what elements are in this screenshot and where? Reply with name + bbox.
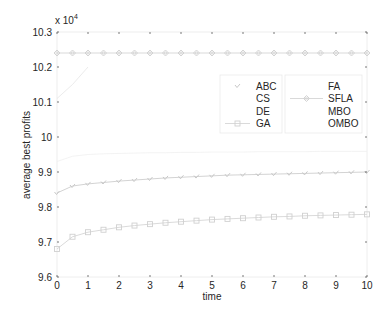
x-tick-label: 3 <box>147 280 153 291</box>
legend: ABCCSDEGAFASFLAMBOOMBO <box>220 75 362 133</box>
legend-box-left: ABCCSDEGA <box>220 75 282 133</box>
y-tick-label: 9.9 <box>38 167 52 178</box>
x-axis-label: time <box>203 291 222 302</box>
x-tick-label: 10 <box>361 280 373 291</box>
x-tick-label: 5 <box>209 280 215 291</box>
x-tick-label: 0 <box>54 280 60 291</box>
axes-box <box>57 32 367 277</box>
x-tick-label: 4 <box>178 280 184 291</box>
x-tick-label: 9 <box>333 280 339 291</box>
x-tick-label: 6 <box>240 280 246 291</box>
y-tick-label: 10 <box>41 132 53 143</box>
x-tick-label: 2 <box>116 280 122 291</box>
y-tick-label: 9.6 <box>38 272 52 283</box>
x-tick-label: 1 <box>85 280 91 291</box>
y-exponent-label: x 104 <box>55 13 78 26</box>
y-tick-label: 10.2 <box>33 62 53 73</box>
plot-area <box>57 32 367 277</box>
line-chart: 0123456789109.69.79.89.91010.110.210.3 x… <box>0 0 390 315</box>
legend-label-abc: ABC <box>256 81 277 92</box>
y-axis-label: average best profits <box>21 111 32 199</box>
x-tick-label: 8 <box>302 280 308 291</box>
x-tick-label: 7 <box>271 280 277 291</box>
legend-label-cs: CS <box>256 93 270 104</box>
legend-label-sfla: SFLA <box>328 93 353 104</box>
legend-label-mbo: MBO <box>328 106 351 117</box>
legend-box-right: FASFLAMBOOMBO <box>285 75 362 133</box>
legend-label-de: DE <box>256 106 270 117</box>
legend-label-fa: FA <box>328 81 341 92</box>
legend-label-ombo: OMBO <box>328 118 359 129</box>
y-tick-label: 9.8 <box>38 202 52 213</box>
y-tick-label: 9.7 <box>38 237 52 248</box>
y-tick-label: 10.1 <box>33 97 53 108</box>
legend-label-ga: GA <box>256 118 271 129</box>
y-tick-label: 10.3 <box>33 27 53 38</box>
